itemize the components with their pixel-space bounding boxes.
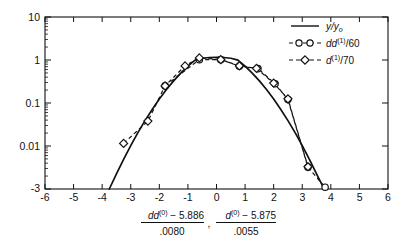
data-point-circle xyxy=(322,184,328,190)
x-axis-tick-labels: -6 -5 -4 -3 -2 -1 0 1 2 3 4 5 6 xyxy=(40,191,391,203)
series-dd1-over-60 xyxy=(162,56,328,190)
legend-marker-circle-b xyxy=(307,40,313,46)
legend-label-dd1-over-60: dd(1)/60 xyxy=(326,37,360,49)
x-axis-caption: dd(0) − 5.886 .0080 , d(0) − 5.875 .0055 xyxy=(141,209,276,237)
legend-label-y-over-y0: y/yo xyxy=(325,21,343,33)
curve-y-over-y0 xyxy=(109,57,326,189)
x-tick-label-m5: -5 xyxy=(69,191,78,203)
legend-label-d1-over-70: d(1)/70 xyxy=(326,54,354,66)
x-tick-label-p4: 4 xyxy=(328,191,334,203)
x-tick-label-p5: 5 xyxy=(357,191,363,203)
figure-container: 10 1 0.1 0.01 -3 -6 -5 -4 -3 -2 -1 0 1 2… xyxy=(0,0,407,242)
x-tick-label-m6: -6 xyxy=(40,191,49,203)
caption-right-numerator: d(0) − 5.875 xyxy=(225,209,276,221)
legend: y/yo dd(1)/60 d(1)/70 xyxy=(289,21,360,66)
x-tick-label-m1: -1 xyxy=(183,191,192,203)
legend-marker-circle-a xyxy=(296,40,302,46)
x-tick-label-p1: 1 xyxy=(242,191,248,203)
x-tick-label-p3: 3 xyxy=(299,191,305,203)
y-axis-tick-labels: 10 1 0.1 0.01 -3 xyxy=(20,11,41,194)
y-tick-label-0.1: 0.1 xyxy=(25,97,40,109)
caption-separator: , xyxy=(208,218,211,229)
x-tick-label-p2: 2 xyxy=(271,191,277,203)
x-tick-label-m4: -4 xyxy=(98,191,107,203)
caption-left-numerator: dd(0) − 5.886 xyxy=(148,209,205,221)
x-tick-label-m3: -3 xyxy=(126,191,135,203)
series-y-over-y0 xyxy=(109,57,326,189)
caption-right-denominator: .0055 xyxy=(233,226,258,237)
x-tick-label-0: 0 xyxy=(214,191,220,203)
y-tick-label-0.01: 0.01 xyxy=(20,140,41,152)
x-tick-label-p6: 6 xyxy=(385,191,391,203)
legend-marker-diamond xyxy=(301,56,309,64)
y-tick-label-10: 10 xyxy=(28,11,40,23)
dashed-line-circle xyxy=(165,60,325,188)
caption-left-denominator: .0080 xyxy=(159,226,184,237)
y-tick-label-minus3: -3 xyxy=(31,182,40,194)
x-tick-label-m2: -2 xyxy=(155,191,164,203)
y-tick-label-1: 1 xyxy=(34,54,40,66)
semilog-chart: 10 1 0.1 0.01 -3 -6 -5 -4 -3 -2 -1 0 1 2… xyxy=(0,0,407,242)
